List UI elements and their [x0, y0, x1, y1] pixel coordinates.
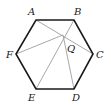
label-q: Q: [67, 43, 75, 54]
chord-f-q: [16, 35, 63, 54]
label-d: D: [71, 92, 80, 103]
label-b: B: [73, 6, 81, 17]
hexagon-diagram: A B C D E F Q: [0, 0, 111, 105]
label-f: F: [5, 49, 14, 60]
chord-e-b: [36, 20, 74, 89]
label-e: E: [27, 92, 36, 103]
label-c: C: [96, 49, 104, 60]
label-a: A: [27, 6, 35, 17]
